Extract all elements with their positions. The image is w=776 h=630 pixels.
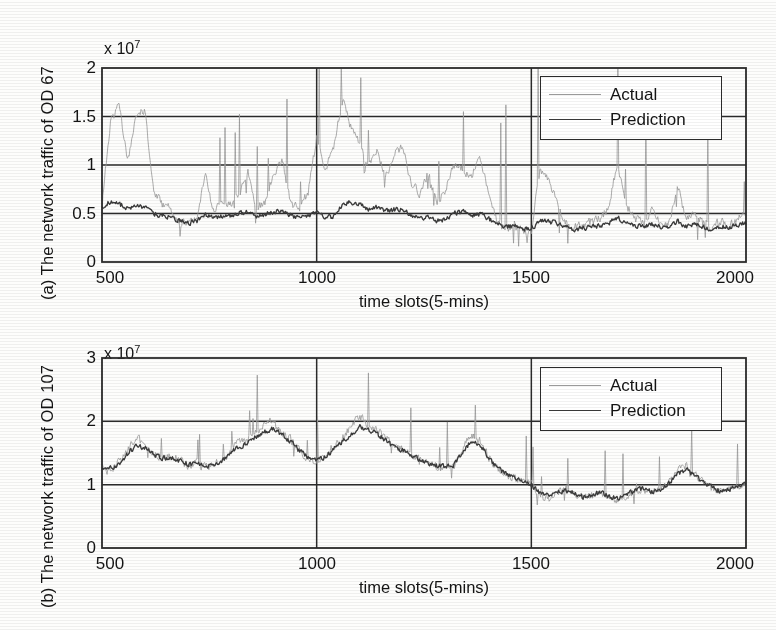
legend-row-prediction: Prediction [549,107,711,132]
figure-container: (a) The network traffic of OD 67 x 107 2… [0,0,776,630]
panel-a-legend: Actual Prediction [540,76,722,140]
panel-a: (a) The network traffic of OD 67 x 107 2… [0,0,776,315]
panel-b-plot [0,315,776,630]
panel-b: (b) The network traffic of OD 107 x 107 … [0,315,776,630]
legend-line-prediction-icon [549,410,601,411]
legend-label-prediction: Prediction [610,402,686,419]
legend-line-actual-icon [549,385,601,386]
panel-b-legend: Actual Prediction [540,367,722,431]
legend-line-prediction-icon [549,119,601,120]
legend-row-prediction: Prediction [549,398,711,423]
legend-row-actual: Actual [549,373,711,398]
legend-row-actual: Actual [549,82,711,107]
legend-label-actual: Actual [610,86,657,103]
legend-label-prediction: Prediction [610,111,686,128]
panel-a-plot [0,0,776,315]
legend-label-actual: Actual [610,377,657,394]
legend-line-actual-icon [549,94,601,95]
